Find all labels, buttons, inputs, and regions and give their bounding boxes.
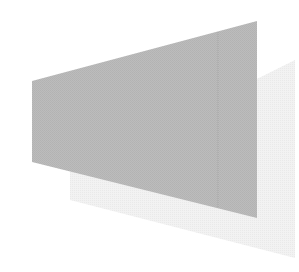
gray-trapezoid [32, 21, 257, 218]
scene-canvas [0, 0, 299, 272]
